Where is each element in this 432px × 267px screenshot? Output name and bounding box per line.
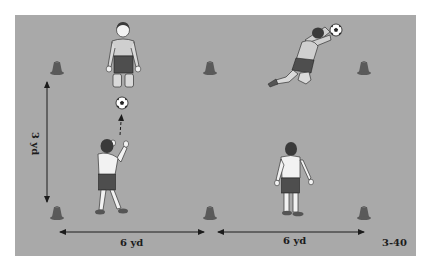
ball-caught-icon	[330, 24, 342, 36]
cone-top-left-icon	[50, 61, 64, 75]
cone-bottom-right-icon	[357, 206, 371, 220]
ball-flight-arrow	[120, 115, 122, 135]
cone-top-middle-icon	[203, 61, 217, 75]
figure-number: 3-40	[382, 237, 407, 248]
player-receiver-icon	[275, 142, 314, 216]
horizontal-measure-label-left: 6 yd	[120, 237, 143, 248]
cone-bottom-middle-icon	[203, 206, 217, 220]
player-diving-keeper-icon	[268, 27, 331, 87]
player-kneeling-keeper-icon	[106, 22, 141, 87]
drill-diagram	[0, 0, 432, 267]
cone-top-right-icon	[357, 61, 371, 75]
player-thrower-icon	[95, 139, 129, 215]
horizontal-measure-label-right: 6 yd	[283, 235, 306, 246]
vertical-measure-label: 3 yd	[30, 132, 41, 155]
ball-tossed-icon	[116, 97, 128, 109]
cone-bottom-left-icon	[50, 206, 64, 220]
